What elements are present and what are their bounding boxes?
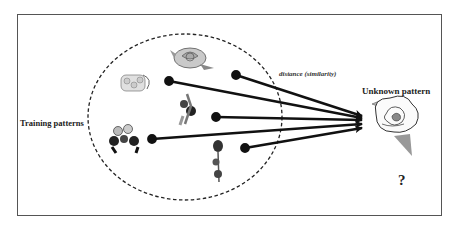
question-mark: ?: [398, 172, 406, 189]
training-patterns-label: Training patterns: [20, 118, 84, 128]
distance-arrow-2: [169, 81, 362, 118]
dark-bouquet-icon: [109, 125, 139, 154]
pink-rose-icon: [170, 48, 214, 70]
distance-arrows: [148, 71, 362, 151]
distance-arrow-4: [152, 124, 362, 139]
unknown-rose-icon: [372, 96, 418, 156]
diagram-canvas: [0, 0, 458, 228]
distance-label: distance (similarity): [279, 70, 336, 78]
distance-arrow-1: [236, 75, 362, 116]
white-flower-bunch-icon: [121, 75, 149, 91]
red-rose-stem-icon: [213, 140, 224, 182]
unknown-pattern-label: Unknown pattern: [362, 86, 430, 96]
dark-flower-sprig-icon: [180, 94, 196, 125]
distance-arrow-3: [216, 117, 362, 120]
